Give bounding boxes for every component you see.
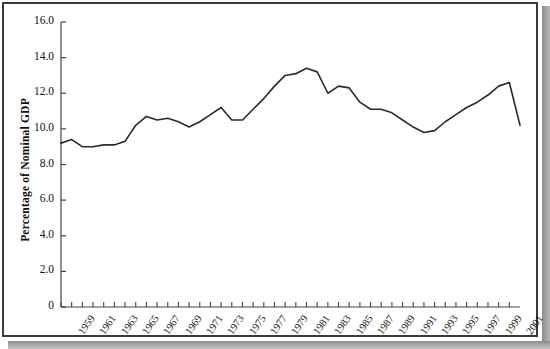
y-axis-ticks — [61, 22, 66, 307]
figure-container: Percentage of Nominal GDP 02.04.06.08.01… — [0, 0, 550, 349]
chart-frame: Percentage of Nominal GDP 02.04.06.08.01… — [2, 2, 538, 337]
axes-group — [61, 22, 520, 307]
figure-shadow-right — [542, 6, 550, 349]
x-axis-ticks — [61, 302, 509, 307]
figure-shadow-bottom — [8, 341, 550, 349]
data-series-line — [61, 68, 520, 146]
line-plot — [4, 4, 540, 339]
